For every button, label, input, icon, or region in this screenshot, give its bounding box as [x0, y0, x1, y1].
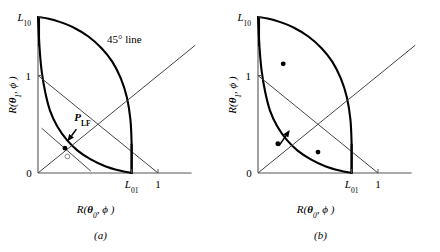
panel-caption-a: (a) [94, 229, 107, 242]
x-tick-label-L01-a: L01 [124, 178, 139, 195]
risk-set-upper-boundary-b [258, 17, 352, 173]
y-tick-label-L10-a: L10 [16, 11, 31, 28]
pointer-to-minimax-point-shaft-a [72, 129, 77, 136]
y-axis-title-a: R(θ1, ϕ ) [6, 76, 23, 115]
y-tick-label-L10-b: L10 [236, 11, 251, 28]
risk-set-lower-boundary-b [258, 17, 352, 173]
minimax-point-label-a: PLF [74, 111, 91, 128]
y-axis-title-b: R(θ1, ϕ ) [226, 76, 243, 115]
x-tick-label-L01-b: L01 [344, 178, 359, 195]
origin-label-a: 0 [26, 167, 32, 179]
secondary-point-a [65, 154, 70, 159]
x-tick-label-1-a: 1 [155, 178, 161, 190]
lower-interior-point-b [316, 150, 321, 155]
pointer-from-boundary-point-shaft-b [279, 136, 286, 146]
x-axis-title-a: R(θ0, ϕ ) [76, 203, 115, 220]
origin-label-b: 0 [246, 167, 252, 179]
45-degree-line-a [38, 45, 195, 173]
annotation-45-degree-line-a: 45° line [107, 33, 142, 45]
y-tick-label-1-b: 1 [246, 70, 252, 82]
x-tick-label-1-b: 1 [375, 178, 381, 190]
minimax-point-a [63, 146, 68, 151]
y-tick-label-1-a: 1 [26, 70, 32, 82]
risk-set-figure: 0L0111L10R(θ0, ϕ )R(θ1, ϕ )45° linePLF(a… [0, 0, 440, 252]
panel-b: 0L0111L10R(θ0, ϕ )R(θ1, ϕ )(b) [226, 11, 415, 242]
panel-a: 0L0111L10R(θ0, ϕ )R(θ1, ϕ )45° linePLF(a… [6, 11, 195, 242]
panel-caption-b: (b) [314, 229, 327, 242]
figure-container: 0L0111L10R(θ0, ϕ )R(θ1, ϕ )45° linePLF(a… [0, 0, 440, 252]
upper-interior-point-b [281, 61, 286, 66]
x-axis-title-b: R(θ0, ϕ ) [296, 203, 335, 220]
